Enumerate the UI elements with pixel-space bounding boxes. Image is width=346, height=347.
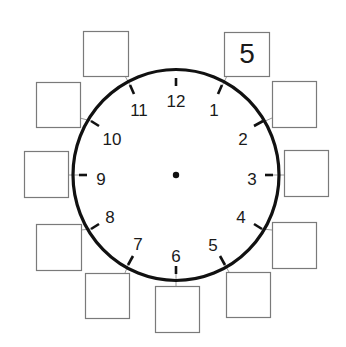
answer-box-frame[interactable] (25, 152, 69, 198)
hour-numeral-12: 12 (167, 92, 186, 111)
hour-numerals: 121234567891011 (96, 92, 256, 266)
hour-numeral-10: 10 (103, 130, 122, 149)
hour-numeral-3: 3 (247, 170, 256, 189)
answer-box-2[interactable] (273, 82, 317, 128)
clock-worksheet: 5 121234567891011 (0, 0, 346, 347)
answer-box-frame[interactable] (84, 32, 129, 77)
tick-mark-4 (254, 224, 262, 229)
tick-mark-2 (254, 121, 263, 126)
tick-mark-11 (130, 85, 134, 94)
answer-box-frame[interactable] (37, 83, 81, 128)
answer-box-frame[interactable] (273, 82, 317, 128)
hour-numeral-2: 2 (238, 130, 247, 149)
answer-box-10[interactable] (37, 83, 81, 128)
answer-box-1[interactable]: 5 (225, 33, 270, 77)
tick-mark-1 (218, 85, 222, 94)
answer-box-3[interactable] (285, 151, 329, 197)
hour-numeral-5: 5 (208, 236, 217, 255)
hour-numeral-9: 9 (96, 170, 105, 189)
answer-box-frame[interactable] (285, 151, 329, 197)
tick-mark-5 (220, 256, 225, 265)
hour-numeral-7: 7 (133, 235, 142, 254)
answer-box-frame[interactable] (273, 223, 317, 269)
clock-diagram: 5 121234567891011 (0, 0, 346, 347)
hour-numeral-11: 11 (130, 101, 148, 120)
answer-box-11[interactable] (84, 32, 129, 77)
answer-box-frame[interactable] (86, 274, 130, 319)
answer-box-value: 5 (239, 38, 255, 69)
tick-mark-10 (91, 121, 99, 126)
answer-box-frame[interactable] (227, 273, 271, 318)
answer-box-frame[interactable] (156, 287, 200, 333)
hour-numeral-8: 8 (105, 208, 114, 227)
hour-numeral-4: 4 (236, 208, 245, 227)
clock-center-dot (173, 172, 179, 178)
hour-numeral-1: 1 (209, 101, 218, 120)
tick-mark-7 (128, 256, 133, 265)
answer-boxes: 5 (25, 32, 329, 333)
answer-box-8[interactable] (37, 225, 82, 271)
answer-box-4[interactable] (273, 223, 317, 269)
answer-box-frame[interactable] (37, 225, 82, 271)
hour-numeral-6: 6 (171, 247, 180, 266)
answer-box-5[interactable] (227, 273, 271, 318)
answer-box-6[interactable] (156, 287, 200, 333)
answer-box-7[interactable] (86, 274, 130, 319)
answer-box-9[interactable] (25, 152, 69, 198)
tick-mark-8 (91, 224, 99, 229)
